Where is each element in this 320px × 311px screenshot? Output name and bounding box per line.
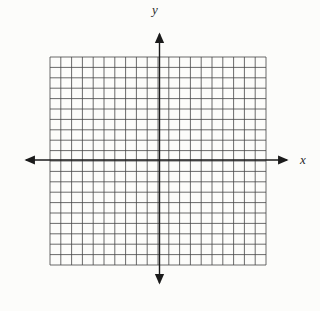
grid-lines xyxy=(50,57,266,265)
y-axis-label: y xyxy=(150,2,158,17)
x-axis-label: x xyxy=(299,152,306,167)
coordinate-plane-svg: y x xyxy=(0,0,320,311)
coordinate-plane: y x xyxy=(0,0,320,311)
